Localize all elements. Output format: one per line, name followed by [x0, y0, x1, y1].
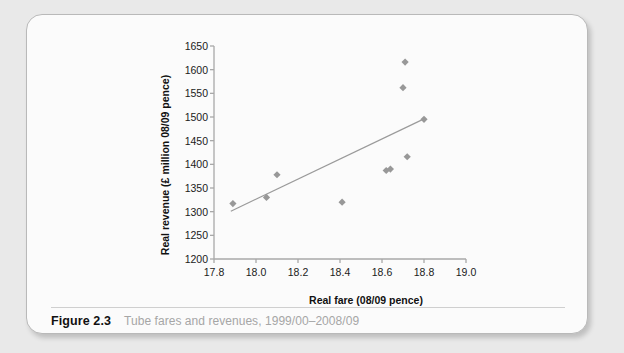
figure-caption: Figure 2.3 Tube fares and revenues, 1999… [51, 314, 359, 328]
x-axis-tick-label: 17.8 [204, 266, 224, 278]
figure-page: 1200125013001350140014501500155016001650… [0, 0, 624, 353]
data-point-marker [229, 200, 236, 207]
scatter-chart-svg [27, 15, 589, 287]
y-axis-tick-label: 1250 [178, 229, 208, 241]
figure-caption-text: Tube fares and revenues, 1999/00–2008/09 [124, 314, 359, 328]
figure-number: Figure 2.3 [51, 314, 111, 328]
y-axis-tick-label: 1600 [178, 64, 208, 76]
x-axis-tick-label: 18.0 [246, 266, 266, 278]
data-point-marker [404, 153, 411, 160]
x-axis-tick-label: 18.6 [372, 266, 392, 278]
x-axis-tick-label: 18.4 [330, 266, 350, 278]
data-point-marker [339, 199, 346, 206]
data-point-marker [402, 58, 409, 65]
y-axis-tick-label: 1550 [178, 87, 208, 99]
chart-plot-region: 1200125013001350140014501500155016001650… [27, 15, 589, 287]
caption-divider [51, 307, 565, 308]
y-axis-tick-label: 1450 [178, 135, 208, 147]
figure-card: 1200125013001350140014501500155016001650… [26, 14, 588, 334]
y-axis-tick-label: 1200 [178, 253, 208, 265]
y-axis-title: Real revenue (£ million 08/09 pence) [159, 75, 171, 255]
x-axis-tick-label: 18.2 [288, 266, 308, 278]
y-axis-tick-label: 1350 [178, 182, 208, 194]
x-axis-tick-label: 19.0 [456, 266, 476, 278]
y-axis-tick-label: 1300 [178, 206, 208, 218]
y-axis-tick-label: 1650 [178, 40, 208, 52]
trend-line [231, 119, 424, 211]
data-point-marker [273, 171, 280, 178]
x-axis-tick-label: 18.8 [414, 266, 434, 278]
x-axis-title: Real fare (08/09 pence) [309, 294, 423, 306]
y-axis-tick-label: 1500 [178, 111, 208, 123]
data-point-marker [420, 116, 427, 123]
data-point-marker [399, 84, 406, 91]
y-axis-tick-label: 1400 [178, 158, 208, 170]
